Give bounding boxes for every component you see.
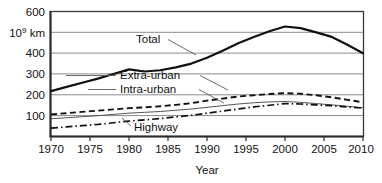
xtick-label-1985: 1985	[155, 143, 181, 155]
y-axis-unit-label: 109 km	[9, 26, 45, 39]
xtick-label-1990: 1990	[194, 143, 220, 155]
xtick-label-2010: 2010	[348, 143, 374, 155]
annotation-highway: Highway	[134, 121, 178, 133]
annotation-total: Total	[136, 33, 160, 45]
xtick-label-1975: 1975	[77, 143, 103, 155]
ytick-label-200: 200	[26, 89, 45, 101]
ytick-label-600: 600	[26, 6, 45, 18]
chart-background	[0, 0, 382, 183]
xtick-label-2005: 2005	[311, 143, 337, 155]
x-axis-ticks: 1970 1975 1980 1985 1990 1995 2000 2005 …	[38, 143, 374, 155]
xtick-label-1980: 1980	[116, 143, 142, 155]
chart-container: 600 400 300 200 100 109 km 1970 1975 198…	[0, 0, 382, 183]
y-unit-suffix: km	[26, 27, 45, 39]
annotation-intra-urban: Intra-urban	[120, 83, 176, 95]
xtick-label-1995: 1995	[233, 143, 259, 155]
xtick-label-2000: 2000	[272, 143, 298, 155]
ytick-label-100: 100	[26, 110, 45, 122]
ytick-label-400: 400	[26, 47, 45, 59]
annotation-extra-urban: Extra-urban	[120, 69, 180, 81]
xtick-label-1970: 1970	[38, 143, 64, 155]
x-axis-title: Year	[195, 164, 218, 176]
y-unit-base: 10	[9, 27, 22, 39]
ytick-label-300: 300	[26, 68, 45, 80]
line-chart: 600 400 300 200 100 109 km 1970 1975 198…	[0, 0, 382, 183]
